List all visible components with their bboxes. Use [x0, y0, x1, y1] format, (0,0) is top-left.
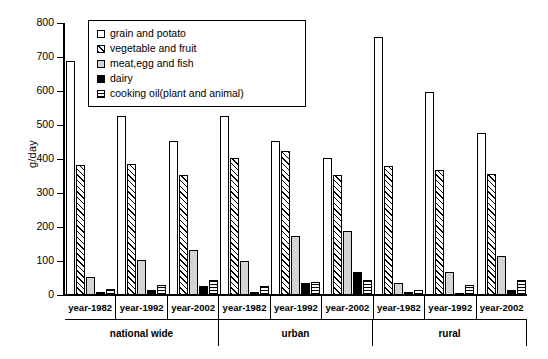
x-axis-year-label: year-1982 — [65, 296, 116, 319]
legend-swatch-icon — [97, 60, 105, 68]
bar — [76, 165, 85, 295]
bar — [477, 133, 486, 295]
legend-label: meat,egg and fish — [110, 58, 193, 69]
y-axis-tick-label: 200 — [0, 221, 54, 231]
bar-group — [424, 23, 475, 295]
bar — [487, 174, 496, 295]
bar — [374, 37, 383, 295]
legend-swatch-icon — [97, 30, 105, 38]
y-axis-tick — [57, 261, 63, 262]
y-axis-tick-label: 400 — [0, 153, 54, 163]
legend-swatch-icon — [97, 45, 105, 53]
legend-label: cooking oil(plant and animal) — [110, 88, 244, 99]
legend-item: vegetable and fruit — [97, 41, 298, 56]
y-axis-tick-label: 500 — [0, 119, 54, 129]
y-axis-tick-label: 100 — [0, 255, 54, 265]
y-axis-tick-label: 300 — [0, 187, 54, 197]
bar — [230, 158, 239, 295]
y-axis-tick — [57, 57, 63, 58]
x-axis-region-label: national wide — [65, 320, 219, 346]
bar — [240, 261, 249, 295]
y-axis-tick — [57, 125, 63, 126]
bar — [435, 170, 444, 295]
y-axis-tick — [57, 91, 63, 92]
bar-group — [373, 23, 424, 295]
legend-item: cooking oil(plant and animal) — [97, 86, 298, 101]
legend-swatch-icon — [97, 75, 105, 83]
legend-item: dairy — [97, 71, 298, 86]
bar — [353, 272, 362, 295]
x-axis-year-label: year-2002 — [168, 296, 219, 319]
bar — [333, 175, 342, 295]
bar — [169, 141, 178, 295]
legend-item: grain and potato — [97, 26, 298, 41]
legend: grain and potatovegetable and fruitmeat,… — [88, 20, 306, 107]
legend-swatch-icon — [97, 90, 105, 98]
x-axis-year-label: year-1992 — [425, 296, 476, 319]
bar — [445, 272, 454, 295]
bar — [179, 175, 188, 295]
bar — [517, 280, 526, 295]
bar — [127, 164, 136, 295]
y-axis-tick — [57, 227, 63, 228]
bar-group — [322, 23, 373, 295]
bar — [271, 141, 280, 295]
legend-item: meat,egg and fish — [97, 56, 298, 71]
bar — [343, 231, 352, 295]
bar-group — [476, 23, 527, 295]
y-axis-tick — [57, 23, 63, 24]
x-axis-year-labels: year-1982year-1992year-2002year-1982year… — [65, 296, 527, 320]
bar — [209, 280, 218, 295]
y-axis-tick-label: 0 — [0, 289, 54, 299]
bar — [291, 236, 300, 296]
y-axis-tick-label: 600 — [0, 85, 54, 95]
y-axis-tick-label: 700 — [0, 51, 54, 61]
x-axis-region-label: rural — [373, 320, 527, 346]
bar — [66, 61, 75, 295]
x-axis-year-label: year-1982 — [219, 296, 270, 319]
legend-label: vegetable and fruit — [110, 43, 196, 54]
x-axis-year-label: year-1982 — [374, 296, 425, 319]
bar — [384, 166, 393, 295]
x-axis-year-label: year-1992 — [116, 296, 167, 319]
bar — [220, 116, 229, 295]
y-axis-tick — [57, 159, 63, 160]
y-axis-tick-label: 800 — [0, 17, 54, 27]
bar — [497, 256, 506, 295]
x-axis-region-labels: national wideurbanrural — [65, 320, 527, 346]
bar-chart: g/day 0100200300400500600700800 year-198… — [0, 0, 548, 359]
bar — [137, 260, 146, 295]
x-axis-year-label: year-1992 — [271, 296, 322, 319]
bar — [86, 277, 95, 295]
bar — [323, 158, 332, 295]
bar — [281, 151, 290, 296]
x-axis-region-label: urban — [219, 320, 373, 346]
x-axis-year-label: year-2002 — [477, 296, 527, 319]
y-axis-tick — [57, 193, 63, 194]
bar — [189, 250, 198, 295]
legend-label: grain and potato — [110, 28, 186, 39]
legend-label: dairy — [110, 73, 133, 84]
bar — [117, 116, 126, 295]
bar — [363, 280, 372, 295]
x-axis-year-label: year-2002 — [322, 296, 373, 319]
bar — [425, 92, 434, 295]
